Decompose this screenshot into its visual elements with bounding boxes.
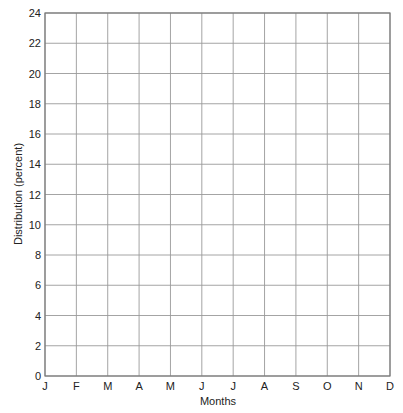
y-tick-label: 0 [35, 370, 41, 382]
y-tick-label: 14 [29, 158, 41, 170]
y-tick-label: 24 [29, 7, 41, 19]
x-tick-label: J [199, 380, 205, 392]
chart: 024681012141618202224 JFMAMJJASOND Month… [0, 0, 403, 413]
y-tick-label: 10 [29, 219, 41, 231]
x-tick-label: J [230, 380, 236, 392]
grid-lines [45, 13, 390, 376]
y-tick-label: 20 [29, 68, 41, 80]
x-tick-label: J [42, 380, 48, 392]
y-tick-label: 2 [35, 340, 41, 352]
x-tick-label: A [135, 380, 143, 392]
y-tick-label: 4 [35, 310, 41, 322]
x-tick-label: M [166, 380, 175, 392]
y-tick-label: 8 [35, 249, 41, 261]
x-tick-label: F [73, 380, 80, 392]
y-axis-title: Distribution (percent) [12, 143, 24, 245]
x-tick-label: M [103, 380, 112, 392]
x-tick-label: S [292, 380, 299, 392]
y-tick-label: 16 [29, 128, 41, 140]
y-tick-label: 18 [29, 98, 41, 110]
x-tick-label: N [355, 380, 363, 392]
y-axis-ticks: 024681012141618202224 [29, 7, 41, 382]
y-tick-label: 22 [29, 37, 41, 49]
y-tick-label: 6 [35, 279, 41, 291]
y-tick-label: 12 [29, 189, 41, 201]
x-axis-ticks: JFMAMJJASOND [42, 380, 394, 392]
x-tick-label: D [386, 380, 394, 392]
x-tick-label: A [261, 380, 269, 392]
x-axis-title: Months [200, 395, 237, 407]
x-tick-label: O [323, 380, 332, 392]
